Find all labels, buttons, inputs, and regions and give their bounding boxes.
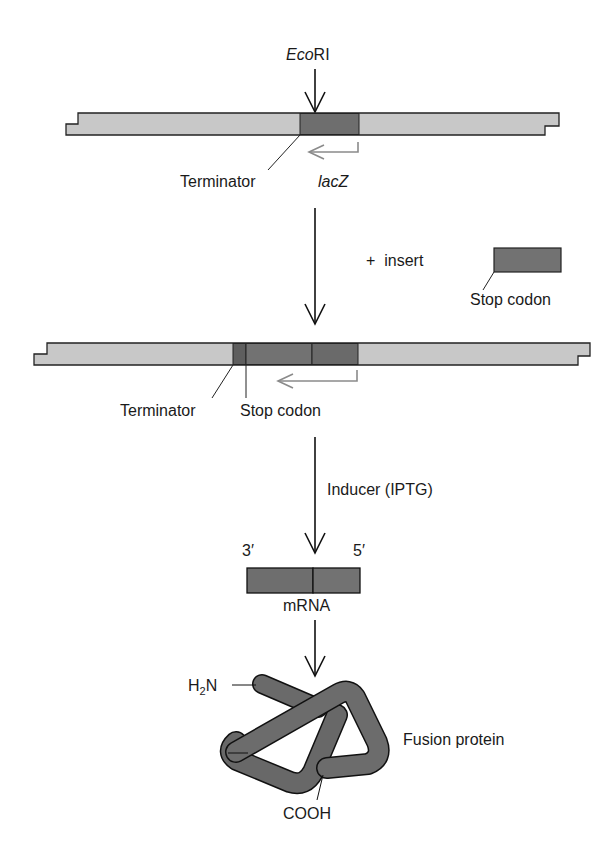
inducer-label: Inducer (IPTG) [327,481,433,498]
terminator-label-1: Terminator [180,173,256,190]
terminator-pointer-1 [268,135,300,170]
lacz-gene-segment [300,114,359,135]
lacz-direction-arrow-icon [309,142,358,159]
stop-codon-label: Stop codon [240,402,321,419]
c-terminus-label: COOH [283,805,331,822]
svg-text:EcoRI: EcoRI [286,46,330,63]
insert-pointer [483,272,494,290]
mrna-label: mRNA [283,597,330,614]
mrna-transcript [247,568,360,593]
fusion-protein-label: Fusion protein [403,731,504,748]
translation-arrow-icon [305,620,325,676]
stop-codon-insert-segment [246,344,312,365]
mrna-5prime-label: 5′ [353,542,365,559]
cloning-diagram: EcoRI Terminator lacZ + insert Stop codo… [0,0,615,846]
terminator-pointer-2 [212,365,233,398]
terminator-label-2: Terminator [120,402,196,419]
plus-insert-label: + insert [366,252,424,269]
lacz-label: lacZ [318,173,349,190]
fusion-protein-shape [228,684,379,783]
insert-stop-codon-label: Stop codon [470,291,551,308]
lacz-direction-arrow-2-icon [278,370,357,388]
ecori-arrow-icon [305,69,325,112]
terminator-segment [233,344,246,365]
vector-plasmid-1 [66,113,559,135]
induction-arrow-icon [305,437,325,553]
ecori-label: EcoRI [286,46,330,63]
lacz-gene-segment-2 [312,344,358,365]
insert-fragment [494,248,561,272]
vector-plasmid-2 [34,343,590,365]
n-terminus-label: H2N [188,677,217,697]
ligation-arrow-icon [305,208,325,324]
mrna-3prime-label: 3′ [242,542,254,559]
